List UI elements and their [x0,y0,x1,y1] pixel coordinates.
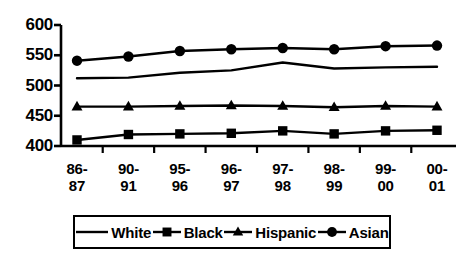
x-axis-tick-label: 95-96 [157,161,203,195]
data-point-circle-marker [226,44,236,54]
x-axis-tick-label: 90-91 [105,161,151,195]
data-point-square-marker [432,126,441,135]
x-axis-tick-label-line1: 95- [157,161,203,178]
y-axis-tick-label: 400 [5,137,53,154]
data-point-circle-marker [72,55,82,65]
x-axis-tick-label-line1: 99- [363,161,409,178]
x-axis-tick-label: 98-99 [311,161,357,195]
x-axis-tick-label-line2: 01 [414,178,460,195]
chart-series-black [72,126,441,145]
x-axis-tick-label-line1: 86- [54,161,100,178]
legend-item-white: White [75,224,151,241]
x-axis-tick-label-line1: 90- [105,161,151,178]
chart-series-hispanic [72,100,443,111]
data-point-circle-marker [278,43,288,53]
series-line [77,63,437,79]
x-axis-tick-label: 97-98 [260,161,306,195]
x-axis-tick-label-line2: 87 [54,178,100,195]
legend-label: Asian [349,224,389,241]
legend-item-hispanic: Hispanic [223,224,316,241]
data-point-square-marker [381,126,390,135]
x-axis-tick-label-line2: 96 [157,178,203,195]
chart-series-asian [72,40,442,66]
data-point-circle-marker [329,44,339,54]
legend-item-black: Black [152,224,223,241]
x-axis-tick-label: 00-01 [414,161,460,195]
y-axis-tick-label: 500 [5,77,53,94]
data-point-square-marker [162,228,171,237]
legend-label: Black [184,224,223,241]
data-point-circle-marker [175,46,185,56]
y-axis-tick-label: 600 [5,16,53,33]
x-axis-tick-label: 99-00 [363,161,409,195]
legend-swatch-square [152,224,182,240]
x-axis-tick-label: 96-97 [208,161,254,195]
data-point-circle-marker [327,227,337,237]
x-axis-tick-label-line2: 97 [208,178,254,195]
chart-axes [54,25,456,153]
data-point-square-marker [278,126,287,135]
x-axis-tick-label-line1: 98- [311,161,357,178]
legend-label: Hispanic [255,224,316,241]
data-point-circle-marker [432,40,442,50]
data-point-square-marker [329,129,338,138]
x-axis-tick-label-line2: 00 [363,178,409,195]
data-point-square-marker [72,135,81,144]
data-point-square-marker [175,129,184,138]
legend-swatch-circle [317,224,347,240]
data-point-square-marker [124,130,133,139]
legend-swatch-triangle [223,224,253,240]
data-point-circle-marker [380,41,390,51]
chart-container: 600550500450400 86-8790-9195-9696-9797-9… [0,0,466,265]
legend-label: White [111,224,151,241]
chart-legend: WhiteBlackHispanicAsian [73,215,391,249]
chart-series-white [77,63,437,79]
y-axis-tick-label: 550 [5,46,53,63]
x-axis-tick-label-line1: 00- [414,161,460,178]
legend-swatch-line [75,224,109,240]
x-axis-tick-label-line1: 96- [208,161,254,178]
legend-item-asian: Asian [317,224,389,241]
x-axis-tick-label-line1: 97- [260,161,306,178]
data-point-square-marker [227,129,236,138]
x-axis-tick-label-line2: 98 [260,178,306,195]
y-axis-tick-label: 450 [5,107,53,124]
chart-series-group [72,40,443,144]
x-axis-tick-label: 86-87 [54,161,100,195]
x-axis-tick-label-line2: 91 [105,178,151,195]
x-axis-tick-label-line2: 99 [311,178,357,195]
data-point-circle-marker [123,51,133,61]
